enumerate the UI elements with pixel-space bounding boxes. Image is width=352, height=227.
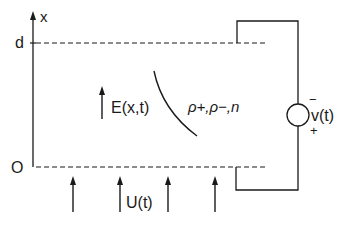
- excitation-arrowhead-3-icon: [165, 176, 171, 185]
- excitation-label: U(t): [126, 194, 153, 211]
- electric-field: E(x,t): [99, 86, 149, 119]
- bottom-wire: [236, 126, 298, 190]
- x-axis-arrowhead-icon: [30, 11, 36, 20]
- excitation-arrowhead-1-icon: [70, 176, 76, 185]
- top-wire: [237, 21, 298, 104]
- bottom-boundary-label: O: [11, 159, 23, 176]
- source-minus-sign: −: [309, 92, 317, 107]
- excitation-arrows: U(t): [70, 176, 218, 212]
- x-axis: x d O: [11, 8, 48, 176]
- diagram-canvas: x d O − + v(t) E(x,t) ρ+,ρ−,n U(t): [0, 0, 352, 227]
- voltage-source: − + v(t): [287, 92, 334, 138]
- source-plus-sign: +: [310, 123, 318, 138]
- x-axis-label: x: [40, 8, 48, 25]
- field-arrowhead-icon: [99, 86, 105, 95]
- excitation-arrowhead-2-icon: [117, 176, 123, 185]
- top-boundary-label: d: [15, 34, 24, 51]
- source-voltage-label: v(t): [311, 107, 334, 124]
- density-label: ρ+,ρ−,n: [187, 98, 239, 115]
- voltage-source-circle-icon: [287, 104, 309, 126]
- excitation-arrowhead-4-icon: [212, 176, 218, 185]
- field-label: E(x,t): [111, 99, 149, 116]
